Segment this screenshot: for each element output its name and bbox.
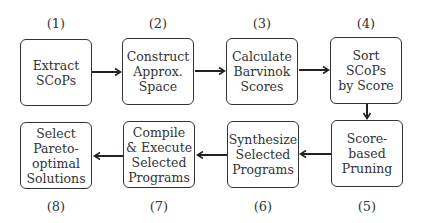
flow-arrows (0, 0, 423, 223)
